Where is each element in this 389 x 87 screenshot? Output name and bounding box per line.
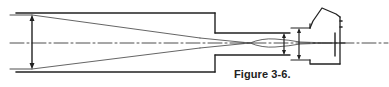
camera-body <box>310 8 342 64</box>
telescope-tube <box>16 13 215 72</box>
figure-caption: Figure 3-6. <box>234 68 291 80</box>
optical-diagram <box>0 0 389 87</box>
light-rays <box>32 15 345 69</box>
objective-aperture-arrow <box>10 15 35 69</box>
lens-arrow-1 <box>282 33 286 55</box>
